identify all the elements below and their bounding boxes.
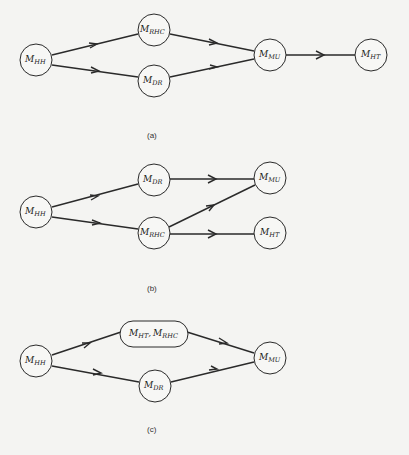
subfigure-b: MHH MDR MRHC MMU MHT (b) — [20, 162, 286, 293]
edge-hh-dr — [52, 184, 138, 207]
edge-hh-dr — [52, 366, 139, 382]
node-m-ht: MHT — [355, 39, 387, 71]
edge-rhc-mu — [170, 34, 254, 51]
node-m-rhc: MRHC — [138, 14, 170, 46]
edge-htrhc-mu — [187, 332, 254, 353]
edge-rhc-mu — [169, 185, 255, 227]
diagram-canvas: MHH MRHC MDR MMU MHT (a) — [0, 0, 409, 455]
caption-c: (c) — [147, 425, 157, 434]
node-m-rhc: MRHC — [138, 217, 170, 249]
node-m-ht-m-rhc-combined: MHT,MRHC — [120, 321, 188, 347]
edge-hh-rhc — [52, 217, 138, 229]
edge-hh-rhc — [52, 34, 138, 55]
edge-dr-mu — [171, 362, 254, 382]
node-m-mu: MMU — [254, 39, 286, 71]
node-m-hh: MHH — [20, 345, 52, 377]
edge-mu-ht — [286, 51, 355, 59]
caption-a: (a) — [147, 131, 157, 140]
node-m-hh: MHH — [20, 44, 52, 76]
edge-rhc-ht — [170, 230, 254, 238]
node-m-mu: MMU — [254, 162, 286, 194]
edge-dr-mu — [170, 175, 254, 183]
caption-b: (b) — [147, 284, 157, 293]
subfigure-a: MHH MRHC MDR MMU MHT (a) — [20, 14, 387, 140]
edge-dr-mu — [170, 59, 254, 77]
edge-hh-dr — [52, 65, 138, 77]
subfigure-c: MHH MHT,MRHC MDR MMU (c) — [20, 321, 286, 434]
node-m-ht: MHT — [254, 217, 286, 249]
node-m-hh: MHH — [20, 196, 52, 228]
node-m-dr: MDR — [138, 65, 170, 97]
node-m-mu: MMU — [254, 342, 286, 374]
node-m-dr: MDR — [139, 370, 171, 402]
node-m-dr: MDR — [138, 164, 170, 196]
edge-hh-htrhc — [52, 332, 121, 355]
